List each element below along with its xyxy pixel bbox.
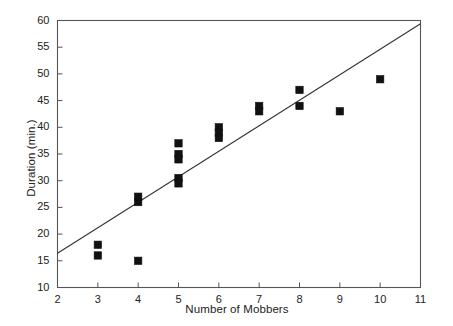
data-point	[94, 241, 101, 248]
data-point	[134, 257, 141, 264]
plot-frame	[58, 21, 421, 288]
data-point	[376, 76, 383, 83]
data-point-markers	[94, 76, 384, 265]
data-point	[94, 252, 101, 259]
data-point	[215, 134, 222, 141]
data-point	[255, 108, 262, 115]
data-point	[175, 140, 182, 147]
data-point	[175, 180, 182, 187]
data-point	[296, 86, 303, 93]
data-point	[134, 198, 141, 205]
chart-figure: Duration (min.) Number of Mobbers 101520…	[0, 0, 453, 326]
data-point	[175, 156, 182, 163]
data-point	[336, 108, 343, 115]
axis-tick-marks	[58, 21, 421, 288]
scatter-plot-canvas	[0, 0, 453, 326]
data-point	[296, 102, 303, 109]
trend-line	[58, 24, 421, 254]
